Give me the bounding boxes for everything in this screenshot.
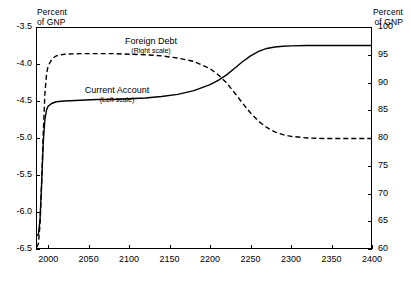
foreign-debt-line	[37, 54, 372, 248]
x-tick-label: 2050	[69, 254, 109, 264]
annotation-foreign-debt-scale: (Right scale)	[96, 47, 206, 54]
right-tick-label: 85	[378, 104, 404, 114]
annotation-foreign-debt-title: Foreign Debt	[96, 36, 206, 46]
x-tick-label: 2200	[190, 254, 230, 264]
annotation-current-account-scale: (Left scale)	[62, 96, 172, 103]
x-tick-mark	[372, 245, 373, 249]
right-tick-mark	[368, 249, 372, 250]
annotation-current-account-title: Current Account	[62, 85, 172, 95]
x-tick-label: 2300	[271, 254, 311, 264]
right-tick-label: 70	[378, 188, 404, 198]
x-tick-label: 2400	[352, 254, 392, 264]
annotation-foreign-debt: Foreign Debt (Right scale)	[96, 36, 206, 54]
right-tick-label: 60	[378, 243, 404, 253]
right-tick-label: 90	[378, 77, 404, 87]
right-tick-label: 65	[378, 215, 404, 225]
x-tick-label: 2100	[109, 254, 149, 264]
left-tick-label: -6.0	[2, 206, 32, 216]
right-tick-label: 100	[378, 21, 404, 31]
x-tick-label: 2350	[312, 254, 352, 264]
current-account-line	[37, 46, 372, 236]
left-tick-mark	[36, 249, 40, 250]
annotation-current-account: Current Account (Left scale)	[62, 85, 172, 103]
left-tick-label: -5.0	[2, 132, 32, 142]
x-tick-label: 2150	[150, 254, 190, 264]
right-tick-label: 80	[378, 132, 404, 142]
left-tick-label: -4.5	[2, 95, 32, 105]
left-tick-label: -5.5	[2, 169, 32, 179]
chart-container: Percent of GNP Percent of GNP -3.5-4.0-4…	[0, 0, 411, 289]
right-tick-label: 75	[378, 160, 404, 170]
series-layer	[36, 27, 372, 249]
left-axis-title: Percent of GNP	[37, 7, 67, 27]
left-tick-label: -4.0	[2, 58, 32, 68]
right-tick-label: 95	[378, 49, 404, 59]
left-tick-label: -6.5	[2, 243, 32, 253]
x-tick-label: 2250	[231, 254, 271, 264]
left-tick-label: -3.5	[2, 21, 32, 31]
x-tick-label: 2000	[28, 254, 68, 264]
